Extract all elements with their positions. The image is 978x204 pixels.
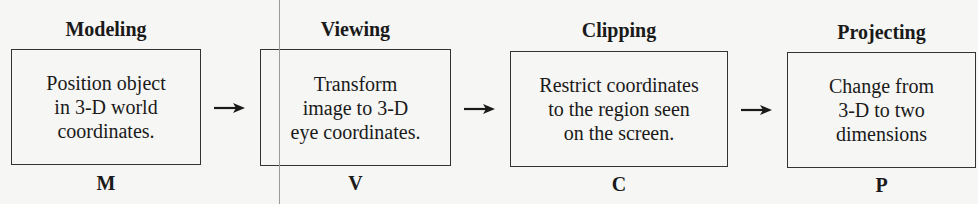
stage-description-projecting: Change from 3-D to two dimensions (829, 74, 934, 146)
stage-letter-c: C (510, 173, 728, 195)
right-arrow-icon (464, 103, 495, 115)
stage-title-projecting: Projecting (787, 21, 976, 43)
stage-box-modeling: Position object in 3-D world coordinates… (11, 49, 201, 165)
right-arrow-icon (214, 102, 245, 114)
stage-letter-p: P (787, 174, 976, 196)
stage-letter-v: V (260, 172, 451, 194)
stage-description-modeling: Position object in 3-D world coordinates… (46, 71, 165, 143)
right-arrow-icon (741, 104, 772, 116)
stage-box-viewing: Transform image to 3-D eye coordinates. (260, 49, 451, 166)
stage-box-clipping: Restrict coordinates to the region seen … (510, 51, 728, 167)
stage-title-viewing: Viewing (260, 18, 451, 40)
stage-description-clipping: Restrict coordinates to the region seen … (539, 73, 698, 145)
stage-box-projecting: Change from 3-D to two dimensions (787, 52, 976, 168)
scan-artifact-line (279, 0, 280, 204)
graphics-pipeline-diagram: Modeling Position object in 3-D world co… (0, 0, 978, 204)
stage-letter-m: M (11, 172, 201, 194)
stage-title-modeling: Modeling (11, 18, 201, 40)
stage-title-clipping: Clipping (510, 19, 728, 41)
stage-description-viewing: Transform image to 3-D eye coordinates. (291, 72, 421, 144)
